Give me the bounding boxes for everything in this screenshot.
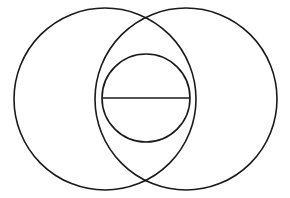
geometric-figure-canvas bbox=[0, 0, 290, 198]
figure-background bbox=[0, 0, 290, 198]
